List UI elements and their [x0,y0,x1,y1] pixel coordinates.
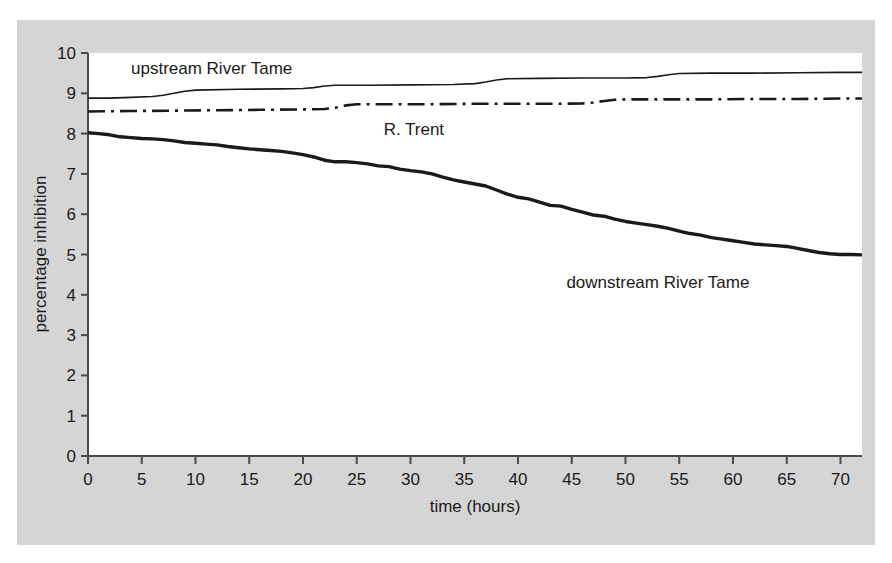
y-tick-label: 10 [57,44,76,63]
x-tick-label: 70 [831,470,850,489]
y-tick-label: 7 [67,165,76,184]
x-tick-label: 35 [455,470,474,489]
y-axis: 012345678910 [57,44,88,466]
y-tick-label: 3 [67,326,76,345]
x-tick-label: 30 [401,470,420,489]
y-tick-label: 9 [67,84,76,103]
y-tick-label: 4 [67,286,76,305]
y-tick-label: 1 [67,407,76,426]
x-tick-label: 20 [294,470,313,489]
x-tick-label: 5 [137,470,146,489]
x-tick-label: 10 [186,470,205,489]
x-tick-label: 15 [240,470,259,489]
x-axis-title: time (hours) [430,497,521,516]
series-label: upstream River Tame [131,59,292,78]
y-tick-label: 5 [67,246,76,265]
x-tick-label: 40 [509,470,528,489]
y-tick-label: 0 [67,447,76,466]
x-tick-label: 60 [724,470,743,489]
y-axis-title: percentage inhibition [31,176,50,333]
x-axis: 0510152025303540455055606570 [83,456,862,489]
x-tick-label: 0 [83,470,92,489]
x-tick-label: 65 [777,470,796,489]
chart-svg: 012345678910 051015202530354045505560657… [0,0,892,563]
plot-area-background [88,53,862,456]
y-tick-label: 2 [67,366,76,385]
x-tick-label: 45 [562,470,581,489]
y-tick-label: 8 [67,125,76,144]
y-tick-label: 6 [67,205,76,224]
series-label: R. Trent [384,120,445,139]
x-tick-label: 25 [347,470,366,489]
x-tick-label: 55 [670,470,689,489]
series-label: downstream River Tame [566,273,749,292]
x-tick-label: 50 [616,470,635,489]
